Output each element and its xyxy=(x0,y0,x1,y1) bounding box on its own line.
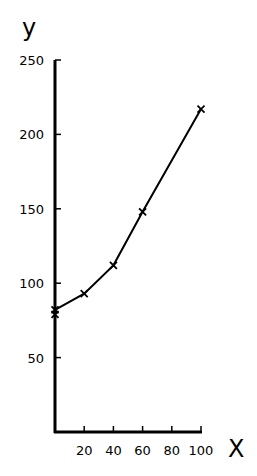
x-tick-label: 100 xyxy=(189,443,214,458)
x-axis-title: X xyxy=(228,435,244,463)
y-tick-label: 50 xyxy=(27,351,44,366)
x-marker-icon xyxy=(139,208,146,215)
y-axis: 50100150200250 xyxy=(19,53,61,433)
x-marker-icon xyxy=(81,290,88,297)
data-series xyxy=(52,106,205,318)
x-marker-icon xyxy=(198,106,205,113)
y-tick-label: 100 xyxy=(19,276,44,291)
y-axis-title: y xyxy=(22,14,36,42)
line-chart: 50100150200250 20406080100 y X xyxy=(0,0,257,476)
series-line xyxy=(55,109,201,310)
x-tick-label: 20 xyxy=(76,443,93,458)
x-tick-label: 80 xyxy=(164,443,181,458)
x-tick-label: 40 xyxy=(105,443,122,458)
x-axis: 20406080100 xyxy=(54,426,213,458)
y-tick-label: 150 xyxy=(19,202,44,217)
x-marker-icon xyxy=(110,262,117,269)
y-tick-label: 250 xyxy=(19,53,44,68)
x-tick-label: 60 xyxy=(134,443,151,458)
y-tick-label: 200 xyxy=(19,127,44,142)
